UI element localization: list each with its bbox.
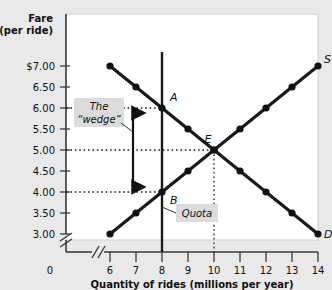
y-tick-label-6-50: 6.50 xyxy=(33,82,55,93)
x-tick-label-7: 7 xyxy=(133,265,139,276)
x-tick-label-12: 12 xyxy=(260,265,273,276)
wedge-label-line2: “wedge” xyxy=(77,114,121,125)
wedge-label-line1: The xyxy=(90,101,109,112)
x-tick-label-14: 14 xyxy=(312,265,325,276)
x-tick-label-13: 13 xyxy=(286,265,299,276)
y-tick-label-5-00: 5.00 xyxy=(33,145,55,156)
point-label-a: A xyxy=(169,91,178,104)
y-tick-label-3-50: 3.50 xyxy=(33,208,55,219)
x-tick-label-8: 8 xyxy=(159,265,165,276)
demand-curve-label: D xyxy=(324,228,332,241)
x-axis-origin-label: 0 xyxy=(47,265,53,276)
point-label-e: E xyxy=(205,133,212,146)
x-axis-title: Quantity of rides (millions per year) xyxy=(91,279,294,290)
x-tick-label-6: 6 xyxy=(107,265,113,276)
quota-label: Quota xyxy=(182,208,212,219)
supply-curve-label: S xyxy=(324,53,331,66)
y-tick-label-4-50: 4.50 xyxy=(33,166,55,177)
y-axis-title-line1: Fare xyxy=(28,13,53,24)
x-tick-label-10: 10 xyxy=(208,265,221,276)
y-axis-title-line2: (per ride) xyxy=(0,25,53,36)
y-tick-label-4-00: 4.00 xyxy=(33,187,55,198)
chart-svg: Fare (per ride) $7.00 6.50 xyxy=(0,0,332,290)
y-tick-label-7-00: $7.00 xyxy=(26,61,55,72)
supply-demand-quota-chart: Fare (per ride) $7.00 6.50 xyxy=(0,0,332,290)
x-tick-label-11: 11 xyxy=(234,265,247,276)
x-tick-label-9: 9 xyxy=(185,265,191,276)
y-tick-label-5-50: 5.50 xyxy=(33,124,55,135)
point-label-b: B xyxy=(170,194,178,207)
y-tick-label-6-00: 6.00 xyxy=(33,103,55,114)
y-tick-label-3-00: 3.00 xyxy=(33,229,55,240)
